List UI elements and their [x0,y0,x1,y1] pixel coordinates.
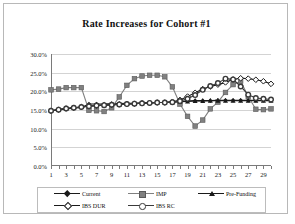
legend-item-ibs-rc[interactable]: IBS RC [128,201,175,210]
legend-label: IMP [156,191,167,197]
x-tick [241,166,242,169]
x-tick [248,166,249,169]
x-tick [112,166,113,169]
y-tick-label: 10.0% [30,125,47,132]
x-tick [157,166,158,169]
legend-marker-icon [198,189,224,198]
x-tick-label: 3 [65,171,68,178]
x-tick-label: 25 [230,171,237,178]
legend-item-ibs-dur[interactable]: IBS DUR [54,201,106,210]
y-tick-label: 30.0% [30,51,47,58]
legend-marker-icon [128,201,154,210]
chart-frame: Rate Increases for Cohort #1 0.0%5.0%10.… [3,3,288,214]
x-tick-label: 27 [245,171,252,178]
y-tick-label: 0.0% [33,163,47,170]
legend-marker-icon [128,189,154,198]
y-tick-label: 20.0% [30,88,47,95]
legend-row: IBS DURIBS RC [38,201,265,212]
x-tick [97,166,98,169]
x-tick [225,166,226,169]
x-tick [263,166,264,169]
x-tick [256,166,257,169]
x-tick-label: 17 [169,171,176,178]
legend-row: CurrentIMPPre-Funding [38,189,265,200]
x-tick [271,166,272,169]
x-tick [142,166,143,169]
x-tick [51,166,52,169]
x-tick-label: 9 [110,171,113,178]
x-tick-label: 1 [49,171,52,178]
x-tick [59,166,60,169]
series-layer [51,54,271,166]
x-tick [150,166,151,169]
x-tick-label: 23 [215,171,222,178]
legend-label: Current [82,191,100,197]
x-tick-label: 7 [95,171,98,178]
legend-marker-icon [54,201,80,210]
x-tick [134,166,135,169]
y-tick-label: 5.0% [33,144,47,151]
x-tick [218,166,219,169]
x-tick [127,166,128,169]
x-tick-label: 15 [154,171,161,178]
x-tick [233,166,234,169]
x-tick [165,166,166,169]
x-tick [195,166,196,169]
legend-marker-icon [54,189,80,198]
x-tick [104,166,105,169]
legend-item-current[interactable]: Current [54,189,100,198]
y-tick-label: 15.0% [30,107,47,114]
legend-label: IBS RC [156,203,175,209]
x-tick [180,166,181,169]
legend-item-pre-funding[interactable]: Pre-Funding [198,189,256,198]
x-tick [66,166,67,169]
x-tick [74,166,75,169]
chart-legend: CurrentIMPPre-Funding IBS DURIBS RC [37,187,266,213]
x-tick-label: 19 [184,171,191,178]
plot-area: 0.0%5.0%10.0%15.0%20.0%25.0%30.0% 135791… [51,54,271,166]
x-tick-label: 13 [139,171,146,178]
y-tick-label: 25.0% [30,69,47,76]
x-tick [119,166,120,169]
x-tick [89,166,90,169]
x-tick [81,166,82,169]
legend-label: Pre-Funding [226,191,256,197]
chart-title: Rate Increases for Cohort #1 [4,18,289,29]
legend-label: IBS DUR [82,203,106,209]
x-tick-label: 29 [260,171,267,178]
x-tick [203,166,204,169]
legend-item-imp[interactable]: IMP [128,189,167,198]
x-tick [172,166,173,169]
x-tick-label: 21 [199,171,206,178]
x-tick [210,166,211,169]
x-tick [188,166,189,169]
x-tick-label: 5 [80,171,83,178]
x-tick-label: 11 [124,171,130,178]
